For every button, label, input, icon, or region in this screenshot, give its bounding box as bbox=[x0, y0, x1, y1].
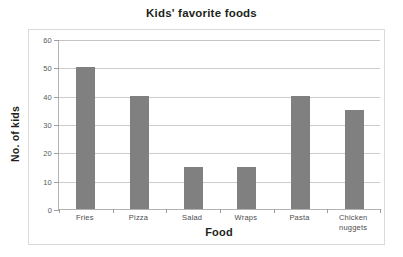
y-axis-tick-label: 10 bbox=[43, 177, 52, 186]
y-axis-title: No. of kids bbox=[7, 84, 23, 184]
y-axis-tick-label: 40 bbox=[43, 92, 52, 101]
x-axis-category-label: Fries bbox=[58, 213, 112, 223]
bar bbox=[345, 110, 364, 209]
bar bbox=[291, 96, 310, 209]
x-axis-category-label-line: Chicken bbox=[339, 213, 368, 222]
y-axis-tick-label: 20 bbox=[43, 149, 52, 158]
x-axis-category-label-line: Wraps bbox=[235, 213, 258, 222]
y-axis-title-text: No. of kids bbox=[9, 106, 21, 162]
y-axis-tick-label: 50 bbox=[43, 64, 52, 73]
x-axis-category-label: Pasta bbox=[273, 213, 327, 223]
y-axis-tick-label: 60 bbox=[43, 36, 52, 45]
x-axis-category-label: Salad bbox=[165, 213, 219, 223]
x-axis-tick bbox=[380, 209, 381, 213]
x-axis-category-label: Wraps bbox=[219, 213, 273, 223]
bar-chart-figure: Kids' favorite foods No. of kids 0102030… bbox=[0, 0, 403, 257]
x-axis-category-label-line: Pizza bbox=[129, 213, 148, 222]
bar bbox=[184, 167, 203, 210]
x-axis-category-label: Pizza bbox=[112, 213, 166, 223]
x-axis-category-label-line: Pasta bbox=[289, 213, 309, 222]
bar bbox=[237, 167, 256, 210]
chart-title: Kids' favorite foods bbox=[0, 7, 403, 19]
bar bbox=[130, 96, 149, 209]
y-axis-tick-label: 30 bbox=[43, 121, 52, 130]
x-axis-category-label-line: Fries bbox=[76, 213, 94, 222]
x-axis-title: Food bbox=[58, 226, 380, 238]
bars-layer bbox=[59, 40, 380, 209]
y-axis-tick-label: 0 bbox=[48, 206, 52, 215]
plot-area: 0102030405060 bbox=[58, 40, 380, 210]
x-axis-category-label-line: Salad bbox=[182, 213, 202, 222]
bar bbox=[76, 67, 95, 209]
